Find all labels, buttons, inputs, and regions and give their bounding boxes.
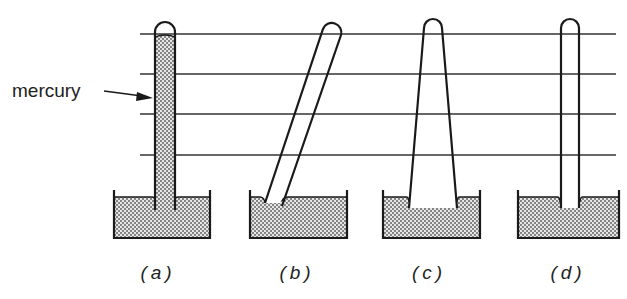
dish-d (518, 190, 619, 238)
panel-label-a: (a) (140, 262, 175, 284)
panel-label-d-text: (d) (550, 262, 585, 283)
mercury-label: mercury (12, 80, 81, 102)
barometer-diagram (0, 0, 627, 299)
panel-label-b-text: (b) (279, 262, 314, 283)
panel-label-c: (c) (412, 262, 446, 284)
panel-label-c-text: (c) (412, 262, 446, 283)
tube-a (155, 22, 175, 210)
dish-b (250, 190, 347, 238)
mercury-arrow (104, 91, 153, 101)
panel-label-d: (d) (550, 262, 585, 284)
panel-d (518, 19, 619, 238)
panel-c (383, 19, 480, 238)
reference-lines (140, 34, 616, 155)
panel-a (114, 22, 210, 238)
panel-label-b: (b) (279, 262, 314, 284)
panel-b (250, 23, 347, 238)
dish-c (383, 190, 480, 238)
panel-label-a-text: (a) (140, 262, 175, 283)
